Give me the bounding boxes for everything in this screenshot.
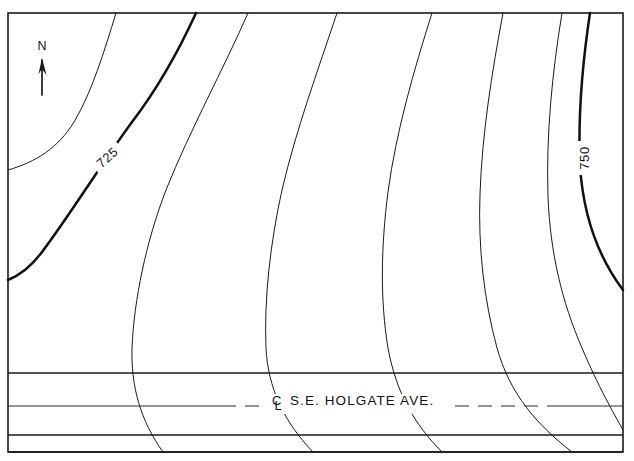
- map-drawing: 725750 N CLS.E. HOLGATE AVE.: [0, 0, 634, 461]
- page-background: [0, 0, 634, 461]
- centerline-symbol-l: L: [275, 398, 282, 413]
- north-arrow-label: N: [37, 39, 46, 53]
- contour-map-canvas: 725750 N CLS.E. HOLGATE AVE.: [0, 0, 634, 461]
- contour-label-text-750: 750: [577, 146, 592, 170]
- street-name-text: S.E. HOLGATE AVE.: [290, 393, 434, 408]
- street-name-label: CLS.E. HOLGATE AVE.: [266, 393, 446, 414]
- contour-label-750: 750: [575, 141, 592, 175]
